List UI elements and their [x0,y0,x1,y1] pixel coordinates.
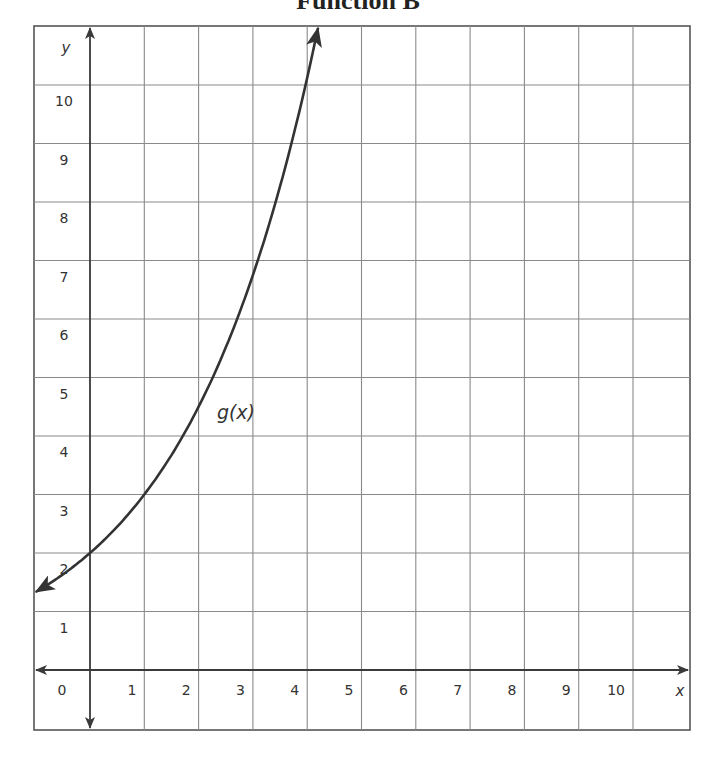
curve-label: g(x) [217,401,255,423]
tick-labels: 01234567891012345678910xy [55,39,684,700]
x-tick-label: 5 [345,682,354,698]
x-tick-label: 1 [127,682,136,698]
y-tick-label: 3 [60,503,69,519]
x-tick-label: 10 [607,682,625,698]
y-tick-label: 5 [60,386,69,402]
x-tick-label: 0 [58,682,67,698]
x-tick-label: 9 [562,682,571,698]
y-tick-label: 8 [60,210,69,226]
y-axis-label: y [61,39,72,57]
y-tick-label: 4 [60,444,69,460]
y-tick-label: 9 [60,152,69,168]
y-tick-label: 6 [60,327,69,343]
y-tick-label: 1 [60,620,69,636]
y-tick-label: 10 [55,93,73,109]
y-tick-label: 7 [60,269,69,285]
function-curve-g: g(x) [36,28,318,592]
x-tick-label: 6 [399,682,408,698]
x-axis-label: x [675,682,685,700]
x-tick-label: 8 [507,682,516,698]
x-tick-label: 7 [453,682,462,698]
grid-lines [34,26,690,730]
curve-g-of-x [36,28,318,592]
x-tick-label: 3 [236,682,245,698]
chart-area: 01234567891012345678910xy g(x) [0,0,716,769]
x-tick-label: 2 [182,682,191,698]
x-tick-label: 4 [290,682,299,698]
